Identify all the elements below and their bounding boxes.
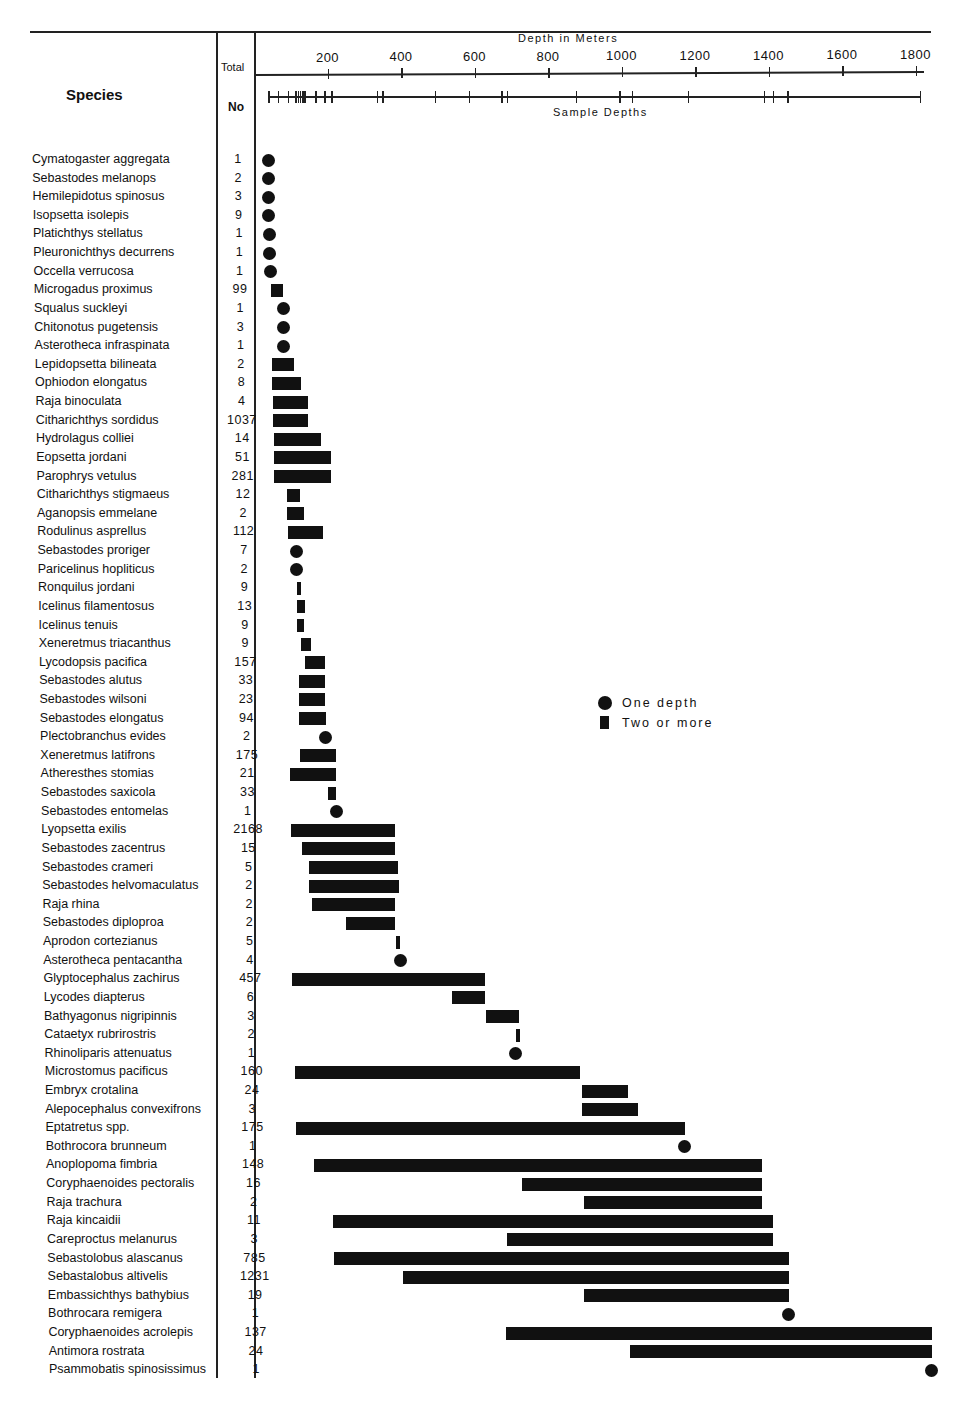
species-total: 8 xyxy=(238,375,245,389)
sample-depths-line xyxy=(268,96,920,98)
sample-depth-tick xyxy=(688,91,690,103)
depth-range-bar xyxy=(297,600,305,613)
species-name: Raja kincaidii xyxy=(47,1213,121,1227)
depth-range-bar xyxy=(507,1233,773,1246)
depth-range-bar xyxy=(274,470,331,483)
species-total: 3 xyxy=(237,320,244,334)
depth-range-bar xyxy=(297,582,301,595)
species-total: 23 xyxy=(239,692,254,706)
species-total: 6 xyxy=(247,990,254,1004)
sample-depth-tick xyxy=(324,91,326,103)
species-total: 4 xyxy=(238,394,245,408)
species-total: 13 xyxy=(237,599,252,613)
species-total: 9 xyxy=(241,618,248,632)
species-name: Coryphaenoides acrolepis xyxy=(48,1325,193,1339)
sample-depth-tick xyxy=(501,91,503,103)
one-depth-marker xyxy=(290,545,303,558)
one-depth-marker xyxy=(277,340,290,353)
species-name: Ronquilus jordani xyxy=(38,580,135,594)
species-total: 1 xyxy=(244,804,251,818)
species-total: 15 xyxy=(241,841,256,855)
species-total: 1 xyxy=(236,264,243,278)
depth-range-bar xyxy=(506,1327,932,1340)
depth-tick-label: 1200 xyxy=(680,48,711,63)
species-name: Sebastodes proriger xyxy=(37,543,150,557)
species-name: Chitonotus pugetensis xyxy=(34,320,158,334)
depth-range-bar xyxy=(522,1178,762,1191)
depth-range-bar xyxy=(328,787,336,800)
species-total: 24 xyxy=(245,1083,260,1097)
depth-range-bar xyxy=(274,451,331,464)
species-total: 5 xyxy=(246,934,253,948)
depth-range-bar xyxy=(301,638,311,651)
depth-range-bar xyxy=(288,526,323,539)
species-total: 19 xyxy=(248,1288,263,1302)
species-total: 2 xyxy=(245,897,252,911)
sample-depth-tick xyxy=(773,91,775,103)
depth-tick xyxy=(548,68,550,78)
species-name: Citharichthys sordidus xyxy=(36,413,159,427)
species-name: Alepocephalus convexifrons xyxy=(45,1102,201,1116)
depth-range-bar xyxy=(584,1196,762,1209)
depth-range-bar xyxy=(452,991,485,1004)
species-total: 33 xyxy=(238,673,253,687)
species-total: 1 xyxy=(252,1362,259,1376)
depth-range-bar xyxy=(292,973,485,986)
species-total: 175 xyxy=(241,1120,263,1134)
species-name: Sebastodes helvomaculatus xyxy=(42,878,198,892)
depth-range-bar xyxy=(584,1289,789,1302)
species-total: 2 xyxy=(243,729,250,743)
sample-depth-tick xyxy=(632,91,634,103)
species-name: Cataetyx rubrirostris xyxy=(44,1027,156,1041)
no-header: No xyxy=(228,100,244,114)
species-name: Xeneretmus latifrons xyxy=(40,748,155,762)
depth-range-bar xyxy=(295,1066,580,1079)
species-name: Sebastodes melanops xyxy=(32,171,156,185)
species-total: 7 xyxy=(240,543,247,557)
depth-range-bar xyxy=(273,414,308,427)
species-name: Lyopsetta exilis xyxy=(41,822,126,836)
depth-tick xyxy=(769,67,771,77)
species-name: Eopsetta jordani xyxy=(36,450,126,464)
species-name: Aganopsis emmelane xyxy=(37,506,157,520)
depth-axis-line xyxy=(256,71,924,76)
species-total: 1 xyxy=(236,245,243,259)
species-total: 2 xyxy=(250,1195,257,1209)
species-total: 2 xyxy=(247,1027,254,1041)
species-total: 3 xyxy=(249,1102,256,1116)
depth-range-bar xyxy=(334,1252,789,1265)
species-header: Species xyxy=(66,86,123,103)
species-name: Glyptocephalus zachirus xyxy=(43,971,179,985)
species-total: 1 xyxy=(252,1306,259,1320)
species-total: 1231 xyxy=(240,1269,270,1283)
species-total: 1 xyxy=(237,301,244,315)
species-name: Aprodon cortezianus xyxy=(43,934,158,948)
species-name: Sebastodes entomelas xyxy=(41,804,168,818)
species-name: Sebastodes alutus xyxy=(39,673,142,687)
total-header: Total xyxy=(221,61,244,73)
species-name: Embryx crotalina xyxy=(45,1083,138,1097)
species-total: 457 xyxy=(239,971,261,985)
species-total: 11 xyxy=(247,1213,261,1227)
one-depth-marker xyxy=(262,191,275,204)
depth-range-bar xyxy=(299,693,325,706)
depth-range-bar xyxy=(309,880,399,893)
one-depth-marker xyxy=(277,321,290,334)
one-depth-marker xyxy=(925,1364,938,1377)
depth-range-bar xyxy=(290,768,336,781)
depth-range-bar xyxy=(630,1345,932,1358)
species-name: Ophiodon elongatus xyxy=(35,375,147,389)
species-name: Cymatogaster aggregata xyxy=(32,152,170,166)
depth-tick-label: 400 xyxy=(389,49,412,64)
species-total: 160 xyxy=(241,1064,263,1078)
sample-depth-tick xyxy=(295,91,297,103)
species-name: Eptatretus spp. xyxy=(46,1120,130,1134)
species-total: 33 xyxy=(240,785,255,799)
sample-depth-tick xyxy=(507,91,509,103)
species-total: 4 xyxy=(246,953,253,967)
sample-depth-tick xyxy=(576,91,578,103)
species-name: Isopsetta isolepis xyxy=(33,208,129,222)
species-name: Rhinoliparis attenuatus xyxy=(44,1046,171,1060)
species-name: Icelinus tenuis xyxy=(39,618,118,632)
species-name: Squalus suckleyi xyxy=(34,301,127,315)
